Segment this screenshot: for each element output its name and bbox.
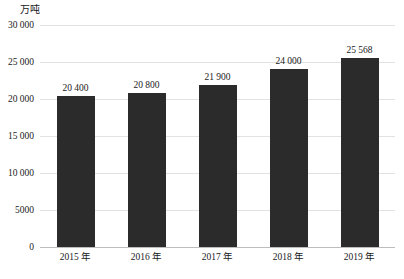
y-axis-tick-label: 30 000 [0, 20, 34, 30]
axis-baseline [40, 247, 395, 248]
y-axis-tick-label: 15 000 [0, 131, 34, 141]
bar[interactable] [57, 96, 95, 247]
x-axis-tick-label: 2015 年 [40, 250, 111, 264]
plot-area: 20 40020 80021 90024 00025 568 [40, 25, 395, 247]
bar-group: 20 800 [111, 25, 182, 247]
x-axis-tick-label: 2017 年 [182, 250, 253, 264]
bar-group: 21 900 [182, 25, 253, 247]
bar[interactable] [199, 85, 237, 247]
y-axis-tick-label: 10 000 [0, 168, 34, 178]
bar-value-label: 24 000 [275, 56, 301, 67]
bar-value-label: 20 800 [133, 80, 159, 91]
bar-group: 24 000 [253, 25, 324, 247]
y-axis-tick-label: 5000 [0, 205, 34, 215]
bar-value-label: 20 400 [62, 83, 88, 94]
bar-value-label: 25 568 [346, 45, 372, 56]
bar-chart: 万吨 0500010 00015 00020 00025 00030 000 2… [0, 0, 404, 279]
y-axis-tick-label: 0 [0, 242, 34, 252]
bar-value-label: 21 900 [204, 72, 230, 83]
bar[interactable] [270, 69, 308, 247]
bar[interactable] [128, 93, 166, 247]
x-axis-tick-label: 2018 年 [253, 250, 324, 264]
y-axis-unit-label: 万吨 [8, 4, 52, 16]
bar-group: 20 400 [40, 25, 111, 247]
x-axis: 2015 年2016 年2017 年2018 年2019 年 [40, 250, 395, 270]
x-axis-tick-label: 2016 年 [111, 250, 182, 264]
bar-group: 25 568 [324, 25, 395, 247]
bar[interactable] [341, 58, 379, 247]
y-axis-tick-label: 25 000 [0, 57, 34, 67]
y-axis-tick-label: 20 000 [0, 94, 34, 104]
x-axis-tick-label: 2019 年 [324, 250, 395, 264]
